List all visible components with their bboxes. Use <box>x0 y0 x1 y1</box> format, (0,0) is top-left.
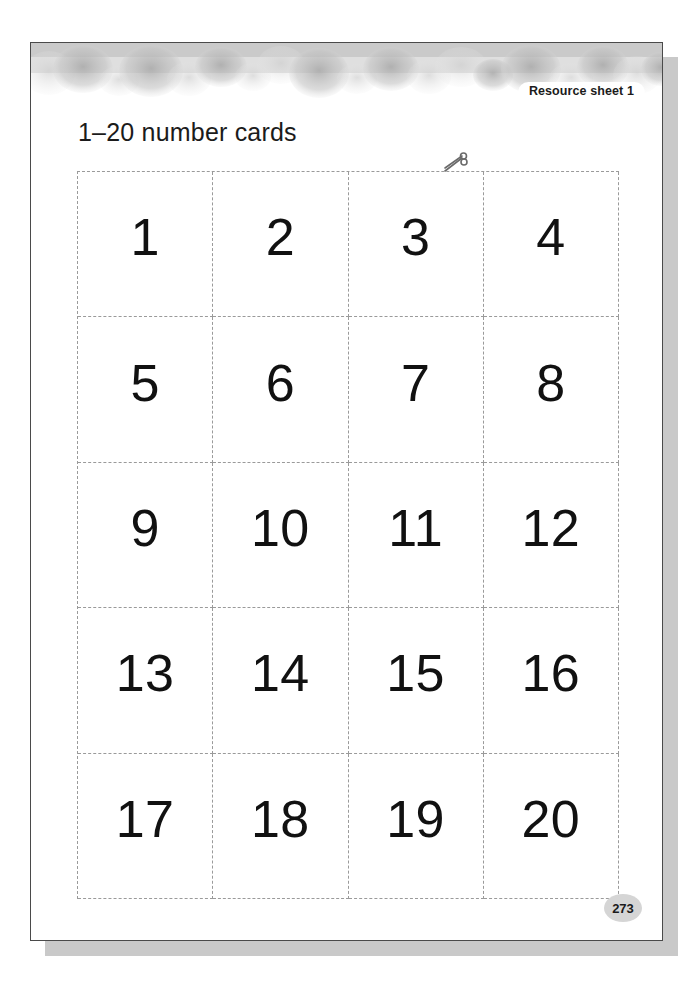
page-title: 1–20 number cards <box>78 118 297 147</box>
number-card-value: 2 <box>266 211 295 263</box>
number-card: 15 <box>349 608 484 753</box>
number-card-value: 1 <box>130 211 159 263</box>
number-cards-grid: 1 2 3 4 5 6 7 8 9 10 11 12 13 14 15 16 1… <box>77 171 619 899</box>
number-card-value: 11 <box>388 502 443 554</box>
number-card-value: 18 <box>251 793 310 845</box>
number-card-value: 19 <box>386 793 445 845</box>
number-card-value: 4 <box>536 211 565 263</box>
number-card: 8 <box>484 317 619 462</box>
resource-sheet-page: Resource sheet 1 1–20 number cards 1 2 3… <box>30 42 663 941</box>
number-card: 7 <box>349 317 484 462</box>
page-number-badge: 273 <box>604 894 642 922</box>
resource-sheet-badge: Resource sheet 1 <box>518 82 645 103</box>
number-card-value: 6 <box>266 357 295 409</box>
number-card-value: 8 <box>536 357 565 409</box>
number-card: 9 <box>78 463 213 608</box>
number-card: 17 <box>78 754 213 899</box>
number-card: 4 <box>484 172 619 317</box>
number-card-value: 9 <box>130 502 159 554</box>
number-card-value: 20 <box>521 793 580 845</box>
number-card-value: 10 <box>251 502 310 554</box>
number-card: 14 <box>213 608 348 753</box>
number-card: 11 <box>349 463 484 608</box>
number-card-value: 7 <box>401 357 430 409</box>
number-card: 13 <box>78 608 213 753</box>
number-card-value: 17 <box>116 793 175 845</box>
number-card: 18 <box>213 754 348 899</box>
number-card: 6 <box>213 317 348 462</box>
number-card-value: 15 <box>386 647 445 699</box>
number-card-value: 12 <box>521 502 580 554</box>
number-card-value: 5 <box>130 357 159 409</box>
number-card: 12 <box>484 463 619 608</box>
number-card-value: 13 <box>116 647 175 699</box>
number-card: 20 <box>484 754 619 899</box>
number-card-value: 14 <box>251 647 310 699</box>
number-card: 16 <box>484 608 619 753</box>
number-card: 2 <box>213 172 348 317</box>
number-card: 19 <box>349 754 484 899</box>
number-card: 1 <box>78 172 213 317</box>
number-card: 5 <box>78 317 213 462</box>
number-card: 10 <box>213 463 348 608</box>
number-card-value: 16 <box>521 647 580 699</box>
number-card: 3 <box>349 172 484 317</box>
number-card-value: 3 <box>401 211 430 263</box>
